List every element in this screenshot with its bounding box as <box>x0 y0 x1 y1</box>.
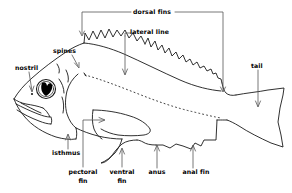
mouth-lower-lip <box>16 104 50 117</box>
operculum-edge <box>66 74 79 128</box>
label-ventral-fin-line2: fin <box>104 177 140 186</box>
isthmus-curve <box>76 128 77 139</box>
cheek-line-1 <box>59 79 64 93</box>
label-spines: spines <box>53 47 76 55</box>
lateral-line-origin-mark <box>84 73 86 76</box>
eye-pupil <box>41 82 52 96</box>
spines-leader <box>72 55 78 66</box>
belly-line-posterior <box>137 140 156 145</box>
jaw-detail-2 <box>51 117 52 124</box>
label-anus: anus <box>142 168 172 176</box>
ventral-fin-shape <box>101 139 137 163</box>
label-tail: tail <box>251 62 263 70</box>
gill-cover-spine <box>66 70 68 82</box>
label-anal-fin: anal fin <box>178 168 214 176</box>
lateral-line-leader <box>125 33 131 74</box>
head-spine-detail <box>57 64 59 73</box>
label-ventral-fin: ventral fin <box>104 168 140 185</box>
soft-dorsal-fin <box>145 38 222 83</box>
label-isthmus: isthmus <box>52 149 80 157</box>
anal-fin-shape <box>156 120 217 149</box>
cheek-line-2 <box>62 97 64 113</box>
label-pectoral-fin: pectoral fin <box>63 168 103 185</box>
lower-jaw-line <box>14 99 76 139</box>
dorsal-fin-base <box>84 43 221 91</box>
label-lateral-line: lateral line <box>130 28 169 36</box>
label-pectoral-fin-line2: fin <box>63 177 103 186</box>
label-ventral-fin-line1: ventral <box>104 168 140 177</box>
lateral-line-curve <box>85 75 221 118</box>
label-pectoral-fin-line1: pectoral <box>63 168 103 177</box>
caudal-fin <box>227 88 284 147</box>
pectoral-fin-shape <box>93 110 150 136</box>
label-dorsal-fins: dorsal fins <box>124 8 180 16</box>
nostril-dot <box>31 93 33 95</box>
dorsal-fins-bracket <box>82 12 223 91</box>
fish-anatomy-diagram: dorsal fins lateral line spines nostril … <box>0 0 292 193</box>
label-nostril: nostril <box>15 64 38 72</box>
